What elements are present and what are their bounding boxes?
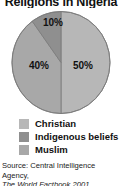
chart-legend: Christian Indigenous beliefs Muslim — [19, 117, 122, 156]
legend-item-muslim: Muslim — [19, 143, 122, 156]
legend-item-christian: Christian — [19, 117, 122, 130]
legend-swatch-christian — [19, 119, 29, 129]
legend-label-indigenous-beliefs: Indigenous beliefs — [35, 131, 118, 142]
pie-label-christian: 50% — [73, 60, 93, 71]
legend-swatch-indigenous-beliefs — [19, 132, 29, 142]
legend-swatch-muslim — [19, 145, 29, 155]
legend-label-muslim: Muslim — [35, 144, 68, 155]
pie-chart-svg: 50% 40% 10% — [11, 11, 111, 114]
legend-item-indigenous-beliefs: Indigenous beliefs — [19, 130, 122, 143]
source-line-1: Source: Central Intelligence Agency, — [2, 161, 122, 180]
pie-label-muslim: 40% — [29, 60, 49, 71]
source-line-2: The World Factbook 2001 — [2, 180, 122, 186]
religions-in-nigeria-pie-figure: Religions in Nigeria 50% 40% 10% Christi… — [0, 0, 122, 186]
pie-chart: 50% 40% 10% — [11, 11, 111, 114]
chart-title: Religions in Nigeria — [0, 0, 122, 8]
pie-label-indigenous-beliefs: 10% — [43, 17, 63, 28]
source-note: Source: Central Intelligence Agency, The… — [2, 161, 122, 186]
legend-label-christian: Christian — [35, 118, 76, 129]
